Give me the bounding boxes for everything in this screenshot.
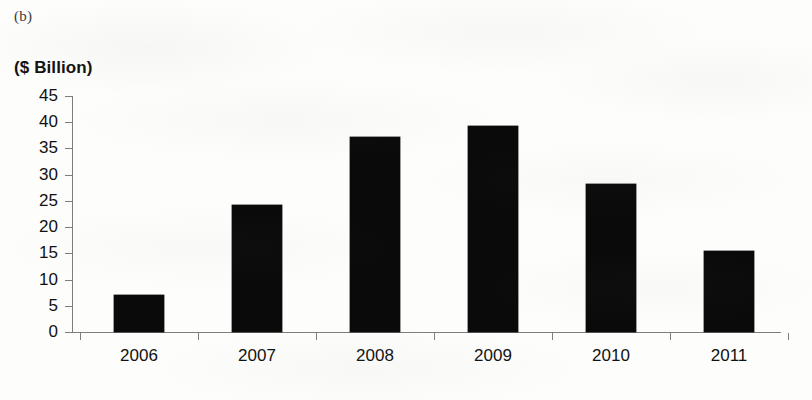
- y-axis-tick-label: 35: [14, 138, 58, 158]
- y-axis-tick: [65, 148, 72, 149]
- x-axis-tick-label: 2007: [238, 346, 276, 366]
- y-axis-tick-label: 30: [14, 165, 58, 185]
- y-axis-tick: [65, 332, 72, 333]
- y-axis-tick-label: 5: [14, 296, 58, 316]
- bar: [704, 251, 754, 332]
- x-axis-tick: [316, 333, 317, 340]
- bar: [114, 295, 164, 332]
- y-axis-tick: [65, 201, 72, 202]
- x-axis-tick: [80, 333, 81, 340]
- x-axis-line: [72, 332, 781, 333]
- x-axis-tick: [788, 333, 789, 340]
- x-axis-tick-label: 2009: [474, 346, 512, 366]
- x-axis-tick: [198, 333, 199, 340]
- y-axis-tick: [65, 253, 72, 254]
- y-axis-tick: [65, 306, 72, 307]
- y-axis-tick: [65, 280, 72, 281]
- y-axis-tick-label: 10: [14, 270, 58, 290]
- y-axis-tick: [65, 96, 72, 97]
- bar: [468, 126, 518, 332]
- y-axis-tick: [65, 175, 72, 176]
- bar: [232, 205, 282, 332]
- y-axis-tick-label: 25: [14, 191, 58, 211]
- x-axis-tick: [670, 333, 671, 340]
- x-axis-tick-label: 2006: [120, 346, 158, 366]
- y-axis-tick-label: 0: [14, 322, 58, 342]
- x-axis-tick: [552, 333, 553, 340]
- y-axis-tick: [65, 122, 72, 123]
- y-axis-tick-label: 40: [14, 112, 58, 132]
- bar: [586, 184, 636, 332]
- x-axis-tick: [434, 333, 435, 340]
- y-axis-tick: [65, 227, 72, 228]
- y-axis-tick-label: 45: [14, 86, 58, 106]
- x-axis-tick-label: 2010: [592, 346, 630, 366]
- x-axis-tick-label: 2011: [711, 346, 748, 366]
- bar-chart: 051015202530354045 200620072008200920102…: [0, 0, 812, 400]
- y-axis-tick-label: 20: [14, 217, 58, 237]
- bar: [350, 137, 400, 332]
- y-axis-line: [72, 96, 73, 333]
- x-axis-tick-label: 2008: [356, 346, 394, 366]
- y-axis-tick-label: 15: [14, 243, 58, 263]
